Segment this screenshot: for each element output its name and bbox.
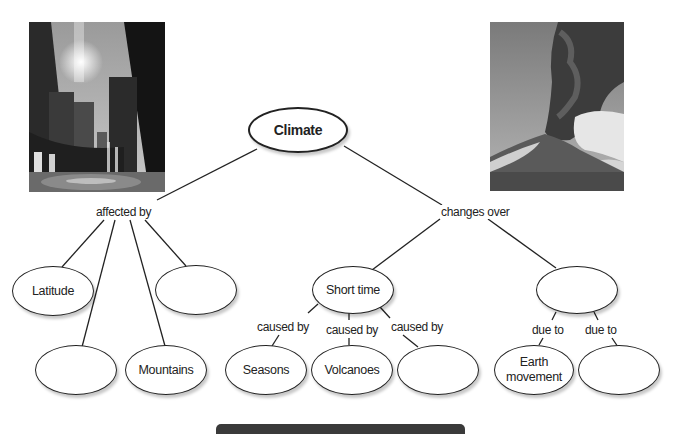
node-blank-due-to[interactable] xyxy=(578,345,660,395)
node-seasons: Seasons xyxy=(225,345,307,395)
link-label-caused-by-3: caused by xyxy=(390,320,444,334)
node-climate: Climate xyxy=(248,107,348,153)
node-mountains: Mountains xyxy=(125,345,207,395)
link-label-due-to-1: due to xyxy=(531,323,565,337)
link-label-due-to-2: due to xyxy=(584,323,618,337)
node-label: Mountains xyxy=(139,363,194,378)
city-skyline-image xyxy=(29,22,165,192)
volcano-eruption-image xyxy=(490,22,624,191)
node-blank-long-time[interactable] xyxy=(536,266,618,314)
node-short-time: Short time xyxy=(312,266,394,314)
node-label: Seasons xyxy=(243,363,290,378)
node-blank-affected-2[interactable] xyxy=(35,345,117,395)
node-blank-caused-by[interactable] xyxy=(397,345,479,395)
node-volcanoes: Volcanoes xyxy=(311,345,393,395)
node-label: Climate xyxy=(274,123,322,138)
node-label: Latitude xyxy=(32,284,74,299)
bottom-banner xyxy=(216,424,465,434)
link-label-caused-by-1: caused by xyxy=(256,320,310,334)
link-label-affected-by: affected by xyxy=(95,205,152,219)
link-label-caused-by-2: caused by xyxy=(325,323,379,337)
node-label: Short time xyxy=(326,283,380,298)
node-earth-movement: Earth movement xyxy=(494,345,574,395)
node-label: Volcanoes xyxy=(325,363,380,378)
volcano-photo xyxy=(490,22,624,191)
node-blank-affected-1[interactable] xyxy=(155,265,237,315)
link-label-changes-over: changes over xyxy=(440,205,510,219)
node-label: Earth movement xyxy=(505,355,563,385)
city-photo xyxy=(29,22,165,192)
node-latitude: Latitude xyxy=(12,266,94,316)
